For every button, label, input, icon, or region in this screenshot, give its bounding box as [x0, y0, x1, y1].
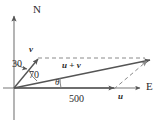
north-axis-label: N	[33, 4, 41, 15]
dashed-line-right	[114, 61, 147, 89]
vector-v-label: v	[29, 45, 33, 54]
vector-u-label: u	[118, 92, 123, 101]
vector-diagram-figure: N E v u u + v 30 70 θ 500	[0, 0, 161, 125]
angle-30-label: 30	[12, 59, 22, 69]
angle-arc-theta	[60, 78, 61, 88]
east-axis-label: E	[146, 81, 153, 92]
magnitude-500-label: 500	[69, 94, 84, 104]
resultant-label: u + v	[62, 61, 81, 70]
angle-70-label: 70	[29, 70, 39, 80]
angle-theta-label: θ	[55, 78, 59, 87]
